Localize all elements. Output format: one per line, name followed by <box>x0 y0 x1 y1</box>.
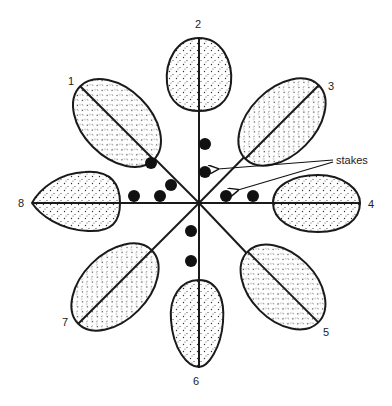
leaf-1 <box>56 62 178 184</box>
stake <box>185 255 197 267</box>
stake <box>145 157 157 169</box>
stakes-label: stakes <box>336 154 368 166</box>
branch-label-8: 8 <box>18 197 24 209</box>
branch-label-1: 1 <box>68 75 74 87</box>
stake <box>165 179 177 191</box>
branch-label-4: 4 <box>368 198 374 210</box>
stake <box>247 190 259 202</box>
branch-label-5: 5 <box>323 326 329 338</box>
branch-label-3: 3 <box>328 80 334 92</box>
leaf-6 <box>171 280 224 367</box>
stake <box>128 190 140 202</box>
branch-label-7: 7 <box>62 316 68 328</box>
radial-leaf-diagram: stakes 1 2 3 4 5 6 7 8 <box>0 0 392 406</box>
branch-label-2: 2 <box>195 18 201 30</box>
leaf-8 <box>32 172 120 231</box>
leaf-2 <box>167 38 231 111</box>
stake <box>199 138 211 150</box>
stake <box>199 166 211 178</box>
leaf-4 <box>273 175 360 232</box>
branch-label-6: 6 <box>193 375 199 387</box>
stake <box>154 190 166 202</box>
stake <box>185 225 197 237</box>
stake <box>220 190 232 202</box>
